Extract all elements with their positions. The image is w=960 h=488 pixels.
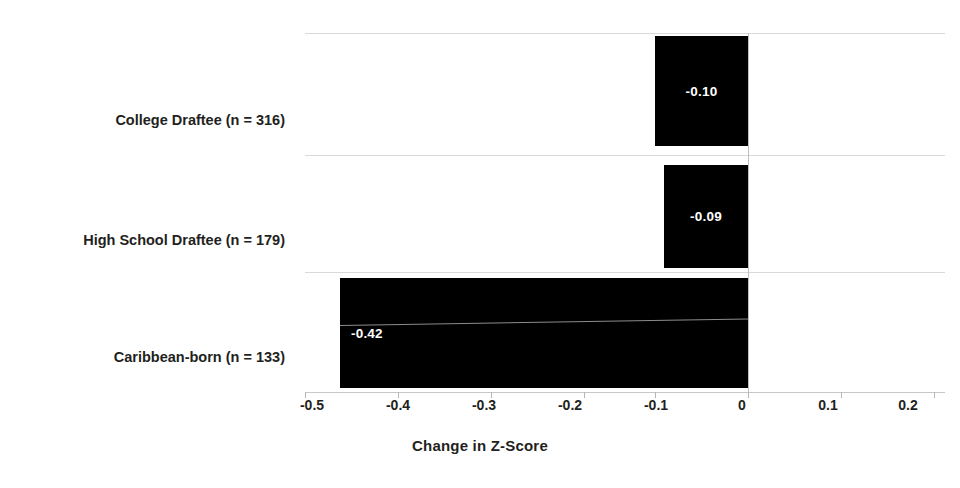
xtick-label-neg01: -0.1 bbox=[626, 397, 686, 413]
bar-college-draftee[interactable]: -0.10 bbox=[655, 36, 748, 146]
bar-high-school-draftee[interactable]: -0.09 bbox=[664, 165, 748, 268]
plot-area: -0.10 -0.09 -0.42 bbox=[305, 33, 945, 392]
gridline-2 bbox=[305, 272, 945, 273]
bar-caribbean-born[interactable]: -0.42 bbox=[340, 278, 748, 388]
gridline-top bbox=[305, 33, 945, 34]
xtick-label-neg02: -0.2 bbox=[540, 397, 600, 413]
zero-axis-line bbox=[748, 33, 749, 392]
category-label-caribbean: Caribbean-born (n = 133) bbox=[0, 349, 285, 365]
bar-value-college: -0.10 bbox=[686, 84, 718, 99]
xtick-label-zero: 0 bbox=[712, 397, 772, 413]
bar-chart: College Draftee (n = 316) High School Dr… bbox=[0, 0, 960, 488]
xtick-label-02: 0.2 bbox=[878, 397, 938, 413]
chart-title-remnant bbox=[0, 0, 960, 2]
category-label-highschool: High School Draftee (n = 179) bbox=[0, 232, 285, 248]
gridline-1 bbox=[305, 155, 945, 156]
category-axis-labels: College Draftee (n = 316) High School Dr… bbox=[0, 33, 295, 392]
xtick-label-neg03: -0.3 bbox=[454, 397, 514, 413]
x-axis-tick-labels: -0.5 -0.4 -0.3 -0.2 -0.1 0 0.1 0.2 bbox=[0, 397, 960, 419]
x-axis-title: Change in Z-Score bbox=[0, 437, 960, 454]
xtick-label-neg05: -0.5 bbox=[282, 397, 342, 413]
xtick-label-01: 0.1 bbox=[798, 397, 858, 413]
category-label-college: College Draftee (n = 316) bbox=[0, 112, 285, 128]
bar-value-caribbean: -0.42 bbox=[351, 326, 383, 341]
bar-value-high-school: -0.09 bbox=[690, 209, 722, 224]
xtick-label-neg04: -0.4 bbox=[368, 397, 428, 413]
